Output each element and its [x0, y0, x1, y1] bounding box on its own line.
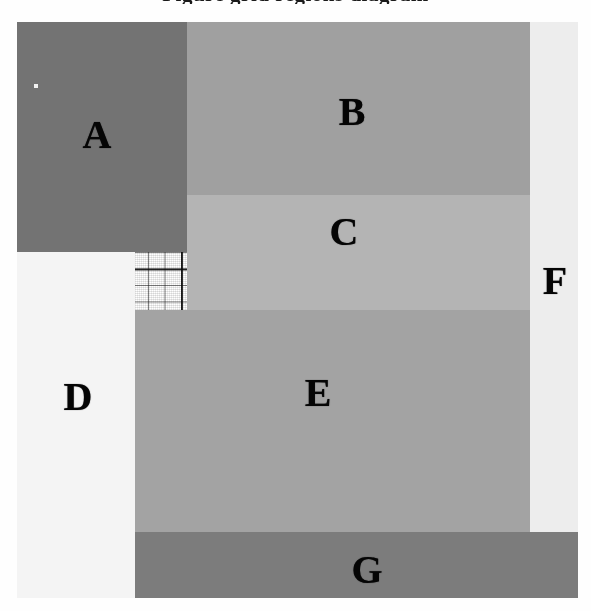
region-label-g: G: [351, 550, 382, 590]
region-e: [135, 310, 530, 532]
region-d: [17, 252, 135, 598]
region-label-e: E: [305, 373, 332, 413]
region-label-d: D: [64, 377, 93, 417]
graph-paper-plate: ABCDEFG: [17, 22, 578, 598]
region-label-b: B: [339, 92, 366, 132]
region-label-a: A: [83, 115, 112, 155]
region-label-f: F: [543, 261, 567, 301]
clipped-caption-text: Figure grid regions diagram: [0, 0, 591, 4]
region-label-c: C: [330, 212, 359, 252]
figure-canvas: Figure grid regions diagram ABCDEFG: [0, 0, 591, 611]
scan-speck: [34, 84, 38, 88]
